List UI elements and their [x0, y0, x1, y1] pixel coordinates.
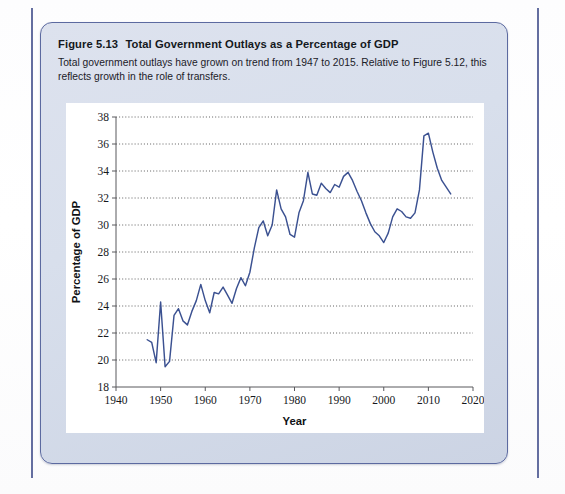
y-tick-label: 24 — [98, 300, 110, 312]
chart-plot-panel: 1820222426283032343638 19401950196019701… — [66, 103, 484, 433]
x-tick-label: 2020 — [462, 394, 485, 406]
x-tick-label: 1990 — [328, 394, 351, 406]
page-right-rule — [537, 8, 539, 478]
y-tick-label: 32 — [98, 192, 110, 204]
plot-background — [66, 103, 484, 433]
figure-title: Figure 5.13 Total Government Outlays as … — [58, 38, 488, 50]
x-tick-label: 1980 — [283, 394, 306, 406]
scanned-page: Figure 5.13 Total Government Outlays as … — [0, 0, 565, 494]
figure-number-label: Figure 5.13 — [58, 38, 118, 50]
x-tick-label: 2010 — [417, 394, 440, 406]
line-chart: 1820222426283032343638 19401950196019701… — [66, 103, 484, 433]
x-axis-title: Year — [283, 415, 307, 427]
x-tick-label: 2000 — [372, 394, 395, 406]
x-tick-label: 1970 — [238, 394, 261, 406]
y-tick-label: 18 — [98, 381, 110, 393]
y-axis-title: Percentage of GDP — [70, 200, 82, 303]
figure-callout-box: Figure 5.13 Total Government Outlays as … — [40, 22, 508, 464]
y-tick-label: 36 — [98, 138, 110, 150]
figure-title-text: Total Government Outlays as a Percentage… — [121, 38, 398, 50]
y-tick-label: 34 — [98, 165, 110, 177]
y-tick-label: 20 — [98, 354, 110, 366]
y-tick-label: 22 — [98, 327, 110, 339]
figure-caption: Total government outlays have grown on t… — [58, 56, 492, 84]
x-tick-label: 1940 — [105, 394, 128, 406]
y-tick-label: 30 — [98, 219, 110, 231]
y-tick-label: 38 — [98, 111, 110, 123]
page-left-rule — [31, 8, 33, 478]
x-tick-label: 1950 — [149, 394, 172, 406]
y-tick-label: 26 — [98, 273, 110, 285]
y-tick-label: 28 — [98, 246, 110, 258]
x-tick-label: 1960 — [194, 394, 217, 406]
